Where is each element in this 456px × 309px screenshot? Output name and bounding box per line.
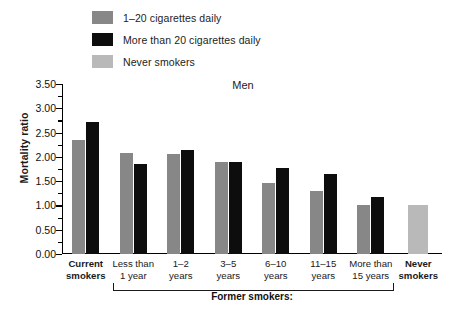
x-axis-category-line: More than bbox=[347, 258, 395, 270]
bar-1-20-cigarettes bbox=[120, 153, 133, 255]
y-tick-major bbox=[56, 230, 62, 231]
x-axis-category-line: 6–10 bbox=[252, 258, 300, 270]
y-tick-major bbox=[56, 181, 62, 182]
x-axis-category-line: years bbox=[252, 270, 300, 282]
legend-swatch-never-smokers bbox=[92, 55, 113, 68]
y-tick-major bbox=[56, 205, 62, 206]
bar-more-than-20-cigarettes bbox=[276, 168, 289, 254]
bar-more-than-20-cigarettes bbox=[371, 197, 384, 254]
y-tick-label: 0.50 bbox=[36, 224, 56, 236]
y-tick-label: 1.50 bbox=[36, 175, 56, 187]
x-axis-category-label: Neversmokers bbox=[395, 258, 443, 281]
y-tick-label: 2.00 bbox=[36, 151, 56, 163]
x-axis-category-line: Less than bbox=[110, 258, 158, 270]
x-axis-category-line: 1 year bbox=[110, 270, 158, 282]
bar-more-than-20-cigarettes bbox=[324, 174, 337, 254]
legend-label-1-20-cigarettes: 1–20 cigarettes daily bbox=[123, 12, 221, 24]
x-axis-category-line: years bbox=[157, 270, 205, 282]
y-tick-minor bbox=[58, 242, 62, 243]
y-tick-label: 0.00 bbox=[36, 248, 56, 260]
x-axis-category-line: 15 years bbox=[347, 270, 395, 282]
legend-label-more-than-20-cigarettes: More than 20 cigarettes daily bbox=[123, 34, 261, 46]
y-tick-minor bbox=[58, 120, 62, 121]
x-axis-category-line: Never bbox=[395, 258, 443, 270]
x-axis-category-line: smokers bbox=[395, 270, 443, 282]
bar-group bbox=[310, 84, 337, 254]
y-tick-label: 1.00 bbox=[36, 199, 56, 211]
bar-group bbox=[120, 84, 147, 254]
bar-never-smokers bbox=[408, 205, 428, 254]
x-axis-category-line: smokers bbox=[62, 270, 110, 282]
x-axis-category-label: 3–5years bbox=[205, 258, 253, 281]
y-tick-label: 2.50 bbox=[36, 127, 56, 139]
x-axis-category-line: years bbox=[205, 270, 253, 282]
bar-group bbox=[405, 84, 432, 254]
bar-1-20-cigarettes bbox=[357, 205, 370, 254]
bar-1-20-cigarettes bbox=[310, 191, 323, 254]
y-tick-minor bbox=[58, 96, 62, 97]
y-tick-minor bbox=[58, 145, 62, 146]
chart-legend: 1–20 cigarettes daily More than 20 cigar… bbox=[92, 8, 392, 74]
legend-swatch-1-20-cigarettes bbox=[92, 11, 113, 24]
y-tick-minor bbox=[58, 193, 62, 194]
former-smokers-bracket bbox=[113, 283, 394, 291]
x-axis-category-label: Less than1 year bbox=[110, 258, 158, 281]
bar-more-than-20-cigarettes bbox=[86, 122, 99, 254]
y-tick-major bbox=[56, 133, 62, 134]
x-axis-category-line: Current bbox=[62, 258, 110, 270]
bar-group bbox=[262, 84, 289, 254]
bar-1-20-cigarettes bbox=[72, 140, 85, 254]
legend-swatch-more-than-20-cigarettes bbox=[92, 33, 113, 46]
x-axis-category-label: Currentsmokers bbox=[62, 258, 110, 281]
x-axis-category-label: More than15 years bbox=[347, 258, 395, 281]
y-tick-major bbox=[56, 108, 62, 109]
x-axis-category-label: 1–2years bbox=[157, 258, 205, 281]
legend-label-never-smokers: Never smokers bbox=[123, 56, 195, 68]
x-axis-category-label: 11–15years bbox=[300, 258, 348, 281]
bar-more-than-20-cigarettes bbox=[134, 164, 147, 254]
bar-1-20-cigarettes bbox=[215, 162, 228, 254]
y-tick-label: 3.00 bbox=[36, 102, 56, 114]
x-axis-category-line: 1–2 bbox=[157, 258, 205, 270]
y-axis-tick-labels: 0.000.501.001.502.002.503.003.50 bbox=[12, 84, 56, 254]
y-tick-minor bbox=[58, 218, 62, 219]
y-tick-major bbox=[56, 254, 62, 255]
y-tick-major bbox=[56, 157, 62, 158]
former-smokers-bracket-label: Former smokers: bbox=[113, 291, 392, 302]
bar-group bbox=[72, 84, 99, 254]
legend-item: Never smokers bbox=[92, 52, 392, 71]
bar-group bbox=[167, 84, 194, 254]
y-tick-major bbox=[56, 84, 62, 85]
bar-more-than-20-cigarettes bbox=[229, 162, 242, 254]
x-axis-category-label: 6–10years bbox=[252, 258, 300, 281]
plot-area bbox=[62, 84, 442, 254]
bar-more-than-20-cigarettes bbox=[181, 150, 194, 254]
legend-item: 1–20 cigarettes daily bbox=[92, 8, 392, 27]
legend-item: More than 20 cigarettes daily bbox=[92, 30, 392, 49]
bar-1-20-cigarettes bbox=[167, 154, 180, 254]
bar-group bbox=[215, 84, 242, 254]
y-tick-label: 3.50 bbox=[36, 78, 56, 90]
x-axis-category-line: 3–5 bbox=[205, 258, 253, 270]
bar-1-20-cigarettes bbox=[262, 183, 275, 254]
y-tick-minor bbox=[58, 169, 62, 170]
x-axis-category-line: years bbox=[300, 270, 348, 282]
x-axis-category-line: 11–15 bbox=[300, 258, 348, 270]
bar-group bbox=[357, 84, 384, 254]
